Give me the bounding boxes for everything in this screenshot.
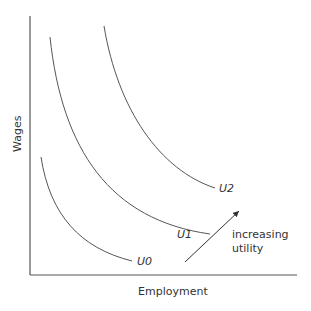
u2-label: U2 xyxy=(219,182,234,195)
annotation-line-1: increasing xyxy=(232,228,289,242)
curve-u0 xyxy=(41,157,132,261)
u1-label: U1 xyxy=(177,228,192,241)
x-axis-label: Employment xyxy=(138,285,208,298)
y-axis-label: Wages xyxy=(11,116,24,152)
annotation-line-2: utility xyxy=(232,242,289,256)
u0-label: U0 xyxy=(137,255,152,268)
curve-u2 xyxy=(104,26,215,188)
increasing-utility-annotation: increasing utility xyxy=(232,228,289,256)
curve-u1 xyxy=(50,37,210,234)
indifference-diagram xyxy=(0,0,311,311)
increasing-utility-arrow xyxy=(185,211,239,262)
